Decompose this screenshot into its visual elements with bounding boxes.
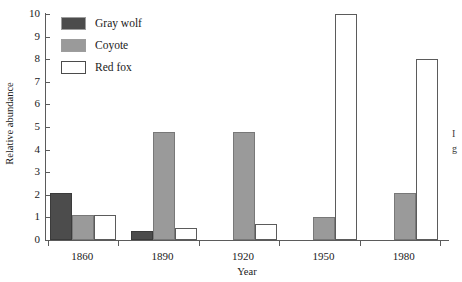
y-axis-tick-label: 10 (14, 8, 40, 19)
y-axis-tick-label: 3 (14, 166, 40, 177)
legend-swatch-icon (61, 17, 86, 30)
legend-label: Coyote (95, 39, 128, 51)
legend-item-red-fox: Red fox (61, 57, 181, 77)
bar-coyote-1890 (153, 132, 175, 240)
x-axis-tick-label: 1860 (52, 250, 112, 262)
x-axis-tick-origin (48, 241, 49, 246)
legend-item-gray-wolf: Gray wolf (61, 13, 181, 33)
x-axis-tick (440, 241, 441, 246)
y-axis-tick-label: 9 (14, 31, 40, 42)
bar-coyote-1950 (313, 217, 335, 240)
bar-red-fox-1950 (335, 14, 357, 240)
chart-legend: Gray wolfCoyoteRed fox (61, 13, 181, 79)
bar-chart-figure: 012345678910 Relative abundance 18601890… (0, 0, 462, 282)
y-axis-tick-label: 6 (14, 98, 40, 109)
x-axis-title: Year (45, 266, 449, 277)
x-axis-tick (118, 241, 119, 246)
bar-gray-wolf-1890 (131, 231, 153, 240)
y-axis-tick-label: 8 (14, 53, 40, 64)
y-axis-tick-label: 4 (14, 144, 40, 155)
legend-label: Gray wolf (95, 17, 142, 29)
y-axis-title: Relative abundance (4, 39, 15, 209)
bar-red-fox-1980 (416, 59, 438, 240)
bar-red-fox-1860 (94, 215, 116, 240)
legend-label: Red fox (95, 61, 132, 73)
x-axis-tick-label: 1890 (133, 250, 193, 262)
legend-swatch-icon (61, 39, 86, 52)
clipped-margin-line-2: g (452, 141, 462, 156)
y-axis-tick-label: 1 (14, 211, 40, 222)
clipped-margin-line-1: I (452, 126, 462, 141)
bar-gray-wolf-1860 (50, 193, 72, 240)
y-axis-tick-label: 5 (14, 121, 40, 132)
legend-item-coyote: Coyote (61, 35, 181, 55)
clipped-margin-text: I g (452, 126, 462, 158)
bar-red-fox-1890 (175, 228, 197, 240)
bar-coyote-1860 (72, 215, 94, 240)
x-axis-tick (199, 241, 200, 246)
bar-red-fox-1920 (255, 224, 277, 240)
x-axis-line (45, 240, 449, 241)
x-axis-tick (279, 241, 280, 246)
legend-swatch-icon (61, 61, 86, 74)
x-axis-tick (360, 241, 361, 246)
x-axis-tick-label: 1950 (293, 250, 353, 262)
bar-coyote-1920 (233, 132, 255, 240)
y-axis-tick-label: 7 (14, 76, 40, 87)
x-axis-tick-label: 1920 (213, 250, 273, 262)
bar-coyote-1980 (394, 193, 416, 240)
x-axis-tick-label: 1980 (374, 250, 434, 262)
y-axis-tick-label: 0 (14, 234, 40, 245)
y-axis-tick-label: 2 (14, 189, 40, 200)
